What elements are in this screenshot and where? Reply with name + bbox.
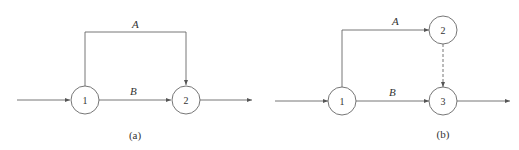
edge-a-label: A: [391, 15, 399, 27]
edge-a: [342, 30, 429, 87]
edge-a-label: A: [131, 18, 139, 30]
node-2-label: 2: [441, 25, 446, 36]
caption-b: (b): [437, 128, 450, 141]
diagram-b: [275, 16, 510, 115]
diagram-a: [17, 32, 252, 114]
node-1-label: 1: [83, 95, 88, 106]
network-diagrams: A B 1 2 (a) A B 1 2 3 (b): [0, 0, 519, 150]
caption-a: (a): [129, 129, 142, 142]
edge-a: [85, 32, 186, 86]
edge-b-label: B: [130, 85, 137, 97]
node-2-label: 2: [184, 95, 189, 106]
edge-b-label: B: [389, 86, 396, 98]
node-1-label: 1: [340, 96, 345, 107]
node-3-label: 3: [441, 96, 446, 107]
